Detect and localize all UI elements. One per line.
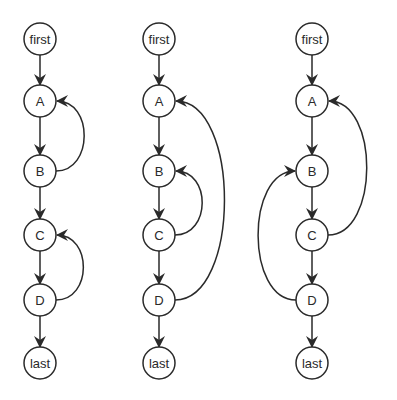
node-C: C xyxy=(24,219,56,251)
node-label: first xyxy=(149,32,170,47)
node-label: first xyxy=(30,32,51,47)
node-last: last xyxy=(296,347,328,379)
node-D: D xyxy=(24,284,56,316)
node-C: C xyxy=(143,219,175,251)
back-edge-D-to-C xyxy=(56,235,83,300)
node-label: C xyxy=(307,228,316,243)
control-flow-diagram: firstABCDlastfirstABCDlastfirstABCDlast xyxy=(0,0,397,400)
node-label: D xyxy=(35,293,44,308)
node-last: last xyxy=(24,347,56,379)
node-last: last xyxy=(143,347,175,379)
back-edge-B-to-A xyxy=(56,101,84,171)
node-label: B xyxy=(155,164,164,179)
node-label: C xyxy=(35,228,44,243)
back-edge-D-to-B xyxy=(258,171,296,300)
graph-1: firstABCDlast xyxy=(24,23,84,379)
node-label: D xyxy=(307,293,316,308)
node-D: D xyxy=(143,284,175,316)
node-label: A xyxy=(155,94,164,109)
node-B: B xyxy=(296,155,328,187)
node-C: C xyxy=(296,219,328,251)
graph-2: firstABCDlast xyxy=(143,23,224,379)
back-edge-C-to-A xyxy=(328,101,367,235)
node-label: last xyxy=(30,356,51,371)
node-label: last xyxy=(149,356,170,371)
node-first: first xyxy=(143,23,175,55)
node-label: A xyxy=(36,94,45,109)
node-first: first xyxy=(24,23,56,55)
node-A: A xyxy=(24,85,56,117)
node-label: C xyxy=(154,228,163,243)
node-B: B xyxy=(24,155,56,187)
node-first: first xyxy=(296,23,328,55)
node-label: B xyxy=(36,164,45,179)
node-A: A xyxy=(296,85,328,117)
node-B: B xyxy=(143,155,175,187)
node-label: D xyxy=(154,293,163,308)
node-label: last xyxy=(302,356,323,371)
node-label: first xyxy=(302,32,323,47)
node-label: A xyxy=(308,94,317,109)
node-A: A xyxy=(143,85,175,117)
back-edge-D-to-A xyxy=(175,101,224,300)
node-label: B xyxy=(308,164,317,179)
back-edge-C-to-B xyxy=(175,171,202,235)
graph-3: firstABCDlast xyxy=(258,23,367,379)
node-D: D xyxy=(296,284,328,316)
